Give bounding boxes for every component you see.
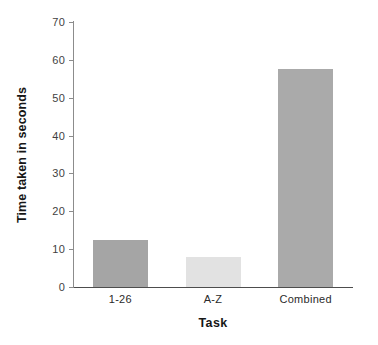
x-tick-label: 1-26 [109, 292, 132, 306]
bar [93, 240, 148, 287]
y-tick-label: 50 [52, 90, 65, 106]
x-tick-label: A-Z [204, 292, 223, 306]
x-axis-spine [74, 287, 353, 288]
y-tick-label: 70 [52, 14, 65, 30]
y-tick-label: 20 [52, 203, 65, 219]
y-axis-title: Time taken in seconds [15, 87, 29, 223]
x-tick-label: Combined [279, 292, 332, 306]
y-tick-label: 40 [52, 128, 65, 144]
y-tick-label: 30 [52, 165, 65, 181]
bar [278, 69, 333, 287]
bar-chart-figure: 010203040506070 1-26A-ZCombined Time tak… [0, 0, 378, 345]
y-tick-label: 60 [52, 52, 65, 68]
plot-area [74, 22, 352, 287]
bar [186, 257, 241, 287]
y-tick-mark [69, 287, 74, 288]
y-tick-label: 0 [59, 279, 65, 295]
y-tick-label: 10 [52, 241, 65, 257]
x-axis-title: Task [199, 316, 228, 330]
